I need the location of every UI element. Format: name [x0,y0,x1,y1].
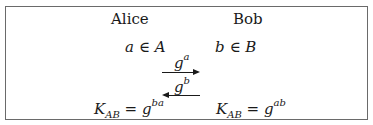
message-gb-label: gb [174,80,190,95]
arrow-alice-to-bob [162,72,194,73]
alice-secret: a ∈ A [125,40,165,55]
message-ga-label: ga [174,56,190,71]
alice-shared-key: KAB = gba [94,102,164,117]
bob-label: Bob [233,12,263,27]
bob-shared-key: KAB = gab [216,102,286,117]
arrow-right-head-icon [193,69,200,75]
arrow-bob-to-alice [168,95,200,96]
alice-label: Alice [111,12,149,27]
bob-secret: b ∈ B [215,40,256,55]
